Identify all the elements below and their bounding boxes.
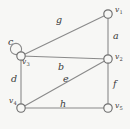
vertex-label-v5: v5 [115,102,123,110]
vertex-v4 [17,104,25,112]
edge-label-f: f [113,79,117,89]
vertex-label-v3: v3 [22,58,30,66]
edge-label-e: e [63,74,69,84]
vertex-label-v1: v1 [115,6,123,14]
graph-diagram: abcdefghv1v2v3v4v5 [0,0,130,129]
edge-label-c: c [8,37,13,47]
edge-label-a: a [113,31,119,41]
edge-g [21,14,108,56]
edge-label-d: d [11,74,17,84]
vertex-v2 [104,55,112,63]
vertices-layer [17,10,112,112]
edge-label-g: g [56,15,62,25]
vertex-v1 [104,10,112,18]
edge-label-h: h [60,99,66,109]
edge-b [21,56,108,59]
vertex-v5 [104,104,112,112]
graph-canvas [0,0,130,129]
vertex-label-v2: v2 [115,53,123,61]
edge-label-b: b [58,62,64,72]
vertex-label-v4: v4 [9,97,17,105]
